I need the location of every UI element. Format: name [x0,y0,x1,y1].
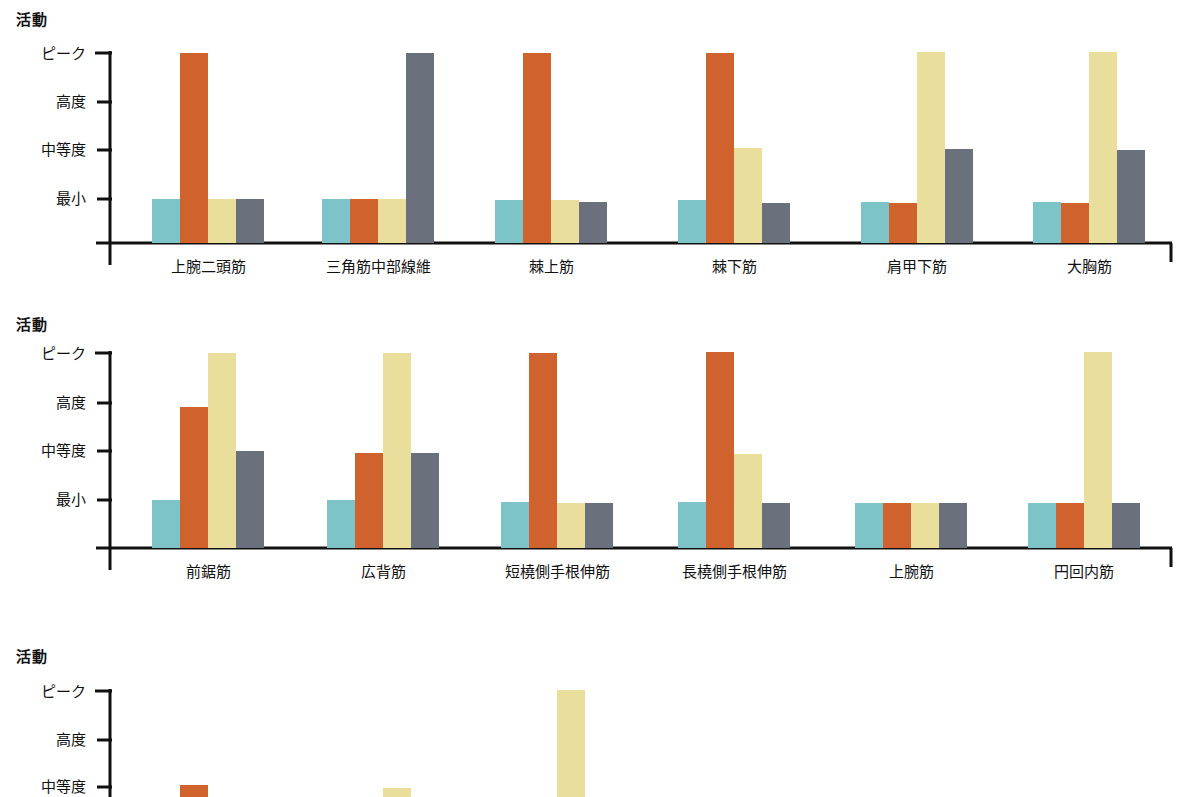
bar-yellow [383,353,411,548]
chart-2-forearm-trunk: 活動 ピーク 高度 中等度 最小 [0,305,1197,600]
bar-teal [861,202,889,243]
bar-gray [1112,503,1140,548]
bar-teal [327,500,355,548]
bar-teal [495,200,523,243]
bar-yellow [557,503,585,548]
bar-yellow [383,788,411,797]
bar-orange [180,53,208,243]
bar-orange [1061,203,1089,243]
bar-teal [1033,202,1061,243]
bar-orange [889,203,917,243]
bar-yellow [551,200,579,243]
x-tick-label: 長橈側手根伸筋 [682,560,787,581]
bar-teal [855,503,883,548]
bar-yellow [1084,352,1112,548]
bar-teal [322,199,350,243]
bar-gray [579,202,607,243]
x-tick-label: 三角筋中部線維 [326,255,431,276]
bar-yellow [911,503,939,548]
bar-orange [529,353,557,548]
bar-gray [945,149,973,243]
x-tick-label: 上腕二頭筋 [171,255,246,276]
bar-teal [678,200,706,243]
bar-gray [411,453,439,548]
bar-gray [1117,150,1145,243]
x-tick-label: 棘上筋 [529,255,574,276]
bar-teal [152,199,180,243]
chart-1-plot-area [0,0,1197,243]
x-tick-label: 上腕筋 [889,560,934,581]
bar-gray [585,503,613,548]
chart-3-plot-area [0,620,1197,797]
x-tick-label: 短橈側手根伸筋 [505,560,610,581]
bar-gray [939,503,967,548]
bar-yellow [208,199,236,243]
bar-orange [350,199,378,243]
bar-yellow [734,454,762,548]
bar-gray [236,199,264,243]
bar-orange [355,453,383,548]
bar-yellow [1089,52,1117,243]
bar-orange [180,785,208,797]
bar-orange [1056,503,1084,548]
bar-teal [1028,503,1056,548]
x-tick-label: 大胸筋 [1067,255,1112,276]
bar-orange [706,352,734,548]
chart-3-partial: 活動 ピーク 高度 中等度 [0,620,1197,797]
bar-yellow [734,148,762,243]
bar-gray [762,203,790,243]
bar-teal [501,502,529,548]
bar-yellow [378,199,406,243]
chart-2-plot-area [0,305,1197,548]
bar-orange [883,503,911,548]
bar-yellow [557,690,585,797]
bar-orange [523,53,551,243]
bar-orange [180,407,208,548]
bar-gray [236,451,264,548]
bar-yellow [917,52,945,243]
x-tick-label: 前鋸筋 [186,560,231,581]
bar-yellow [208,353,236,548]
x-tick-label: 円回内筋 [1054,560,1114,581]
bar-teal [678,502,706,548]
bar-teal [152,500,180,548]
bar-orange [706,53,734,243]
x-tick-label: 棘下筋 [712,255,757,276]
bar-gray [406,53,434,243]
x-tick-label: 広背筋 [361,560,406,581]
chart-1-upper-body: 活動 ピーク 高度 中等度 最小 [0,0,1197,300]
bar-gray [762,503,790,548]
x-tick-label: 肩甲下筋 [887,255,947,276]
